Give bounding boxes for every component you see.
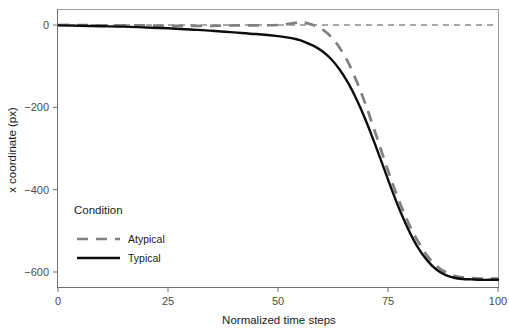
legend-label-atypical: Atypical: [128, 233, 165, 245]
chart-background: [0, 0, 509, 331]
y-tick-label: −400: [24, 184, 49, 196]
x-tick-label: 100: [489, 295, 507, 307]
legend-label-typical: Typical: [128, 252, 161, 264]
y-tick-label: −200: [24, 101, 49, 113]
chart-figure: 0−200−400−600 0255075100 Normalized time…: [0, 0, 509, 331]
x-axis-title: Normalized time steps: [222, 314, 336, 326]
y-tick-label: 0: [43, 19, 49, 31]
legend-title: Condition: [74, 204, 123, 216]
y-axis-title: x coordinate (px): [6, 107, 18, 193]
x-tick-label: 25: [162, 295, 174, 307]
x-tick-label: 75: [382, 295, 394, 307]
x-tick-label: 0: [55, 295, 61, 307]
y-tick-label: −600: [24, 266, 49, 278]
line-chart: 0−200−400−600 0255075100 Normalized time…: [0, 0, 509, 331]
x-tick-label: 50: [272, 295, 284, 307]
